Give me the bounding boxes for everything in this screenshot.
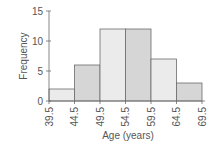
x-axis-title: Age (years): [102, 130, 154, 141]
x-tick-label: 59.5: [146, 107, 157, 127]
histogram-chart: 05101539.544.549.554.559.564.569.5 Frequ…: [0, 0, 215, 151]
y-tick-label: 15: [32, 6, 44, 17]
histogram-bar: [49, 89, 75, 101]
x-tick-label: 44.5: [69, 107, 80, 127]
y-tick-label: 10: [32, 36, 44, 47]
y-tick-label: 5: [37, 66, 43, 77]
x-tick-label: 49.5: [95, 107, 106, 127]
histogram-bar: [126, 29, 152, 101]
x-tick-label: 39.5: [44, 107, 55, 127]
y-axis-title: Frequency: [18, 32, 29, 79]
histogram-bar: [151, 59, 177, 101]
x-tick-label: 69.5: [197, 107, 208, 127]
histogram-bar: [75, 65, 101, 101]
bars: [49, 29, 202, 101]
histogram-bar: [177, 83, 203, 101]
histogram-bar: [100, 29, 126, 101]
x-tick-label: 54.5: [120, 107, 131, 127]
x-tick-label: 64.5: [171, 107, 182, 127]
y-tick-label: 0: [37, 96, 43, 107]
